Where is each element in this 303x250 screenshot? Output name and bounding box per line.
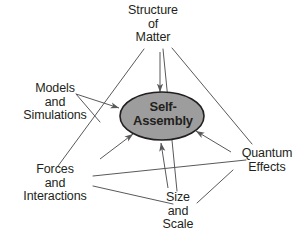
node-forces-and-interactions: Forces and Interactions — [6, 163, 104, 204]
node-structure-of-matter-line-1: Structure — [111, 4, 195, 18]
node-models-and-simulations-line-1: Models — [9, 82, 101, 96]
node-size-and-scale-line-3: Scale — [148, 218, 208, 232]
node-size-and-scale: Size and Scale — [148, 191, 208, 232]
self-assembly-label: Self- Assembly — [126, 100, 200, 127]
node-quantum-effects-line-1: Quantum — [232, 147, 302, 161]
self-assembly-label-line-2: Assembly — [126, 114, 200, 128]
edge-forces-quantum — [93, 160, 246, 176]
node-forces-and-interactions-line-1: Forces — [6, 163, 104, 177]
node-size-and-scale-line-2: and — [148, 205, 208, 219]
node-models-and-simulations: Models and Simulations — [9, 82, 101, 123]
node-models-and-simulations-line-2: and — [9, 96, 101, 110]
node-forces-and-interactions-line-3: Interactions — [6, 190, 104, 204]
node-quantum-effects: Quantum Effects — [232, 147, 302, 174]
node-size-and-scale-line-1: Size — [148, 191, 208, 205]
node-quantum-effects-line-2: Effects — [232, 161, 302, 175]
node-structure-of-matter-line-3: Matter — [111, 31, 195, 45]
arrow-forces-to-self-assembly — [100, 134, 133, 159]
arrow-quantum-to-self-assembly — [196, 131, 231, 152]
self-assembly-label-line-1: Self- — [126, 100, 200, 114]
node-structure-of-matter-line-2: of — [111, 18, 195, 32]
node-models-and-simulations-line-3: Simulations — [9, 109, 101, 123]
arrow-size-to-self-assembly — [161, 143, 168, 188]
self-assembly-diagram: Self- Assembly Structure of Matter Model… — [0, 0, 303, 250]
node-structure-of-matter: Structure of Matter — [111, 4, 195, 45]
node-forces-and-interactions-line-2: and — [6, 177, 104, 191]
